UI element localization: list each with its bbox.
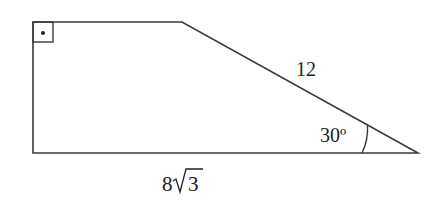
right-angle-marker-icon	[33, 22, 53, 42]
bottom-base-label: 8 3	[162, 169, 203, 196]
angle-arc-icon	[362, 125, 368, 153]
bottom-base-coefficient: 8	[162, 172, 173, 196]
angle-label: 30º	[320, 124, 346, 146]
trapezoid-shape	[33, 22, 418, 153]
slant-side-label: 12	[296, 58, 316, 80]
bottom-base-radicand: 3	[188, 172, 199, 196]
trapezoid-diagram: 12 30º 8 3	[0, 0, 448, 208]
